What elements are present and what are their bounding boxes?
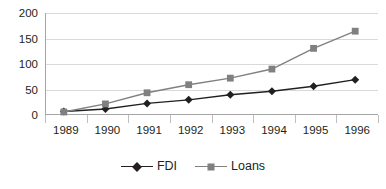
square-marker-icon [208,163,215,170]
data-point-square[interactable] [60,109,67,116]
chart-container: 200 150 100 50 0 1989 1990 1991 1992 199… [0,0,386,189]
data-point-diamond[interactable] [185,96,193,104]
legend-item-loans[interactable]: Loans [195,160,265,173]
legend-label-fdi: FDI [157,160,177,173]
legend-key-loans [195,161,227,173]
data-point-square[interactable] [269,66,276,73]
diamond-marker-icon [132,162,142,172]
data-point-square[interactable] [352,28,359,35]
data-point-diamond[interactable] [143,99,151,107]
data-point-square[interactable] [144,89,151,96]
chart-legend: FDI Loans [0,160,386,173]
data-point-square[interactable] [227,75,234,82]
data-point-diamond[interactable] [226,91,234,99]
data-point-square[interactable] [185,81,192,88]
data-point-diamond[interactable] [310,82,318,90]
legend-label-loans: Loans [231,160,265,173]
series-line-loans [64,31,355,112]
legend-key-fdi [121,161,153,173]
legend-item-fdi[interactable]: FDI [121,160,177,173]
series-loans [60,28,358,116]
data-point-diamond[interactable] [351,76,359,84]
data-point-diamond[interactable] [268,87,276,95]
data-point-square[interactable] [102,101,109,108]
data-point-square[interactable] [310,45,317,52]
